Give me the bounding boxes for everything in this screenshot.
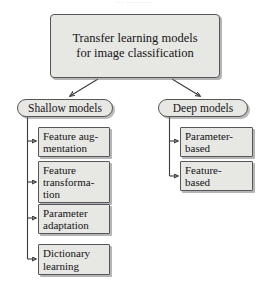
node-shallow-models[interactable]: Shallow models xyxy=(17,99,113,117)
node-root[interactable]: Transfer learning models for image class… xyxy=(50,14,220,78)
node-feature-transformation-label: Feature transforma- tion xyxy=(43,164,94,201)
node-shallow-models-label: Shallow models xyxy=(26,102,104,115)
node-deep-models-label: Deep models xyxy=(171,102,235,115)
node-dictionary-learning-label: Dictionary learning xyxy=(43,247,90,272)
node-feature-based-label: Feature- based xyxy=(185,164,222,189)
edge-root-to-deep xyxy=(172,79,200,96)
node-parameter-adaptation-label: Parameter adaptation xyxy=(43,207,89,232)
clipped-top-caption: ... .......... xyxy=(0,0,269,4)
node-feature-transformation[interactable]: Feature transforma- tion xyxy=(38,161,110,203)
node-feature-augmentation-label: Feature aug- mentation xyxy=(43,130,98,155)
transfer-learning-taxonomy-diagram: ... .......... Transfer learning models … xyxy=(0,0,269,288)
node-deep-models[interactable]: Deep models xyxy=(158,99,248,117)
node-parameter-adaptation[interactable]: Parameter adaptation xyxy=(38,204,110,234)
node-root-label: Transfer learning models for image class… xyxy=(70,31,199,61)
edge-root-to-shallow xyxy=(70,79,98,96)
node-feature-based[interactable]: Feature- based xyxy=(180,161,253,191)
node-parameter-based-label: Parameter- based xyxy=(185,130,233,155)
node-parameter-based[interactable]: Parameter- based xyxy=(180,127,253,157)
node-feature-augmentation[interactable]: Feature aug- mentation xyxy=(38,127,110,157)
node-dictionary-learning[interactable]: Dictionary learning xyxy=(38,244,110,275)
